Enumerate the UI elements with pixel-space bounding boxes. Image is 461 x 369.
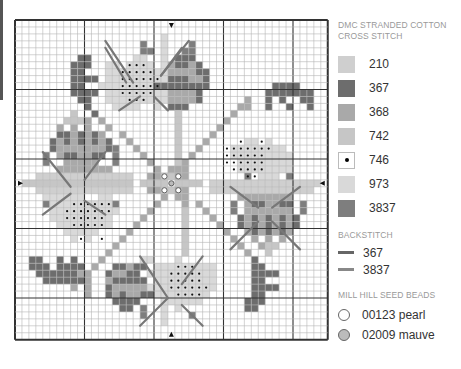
stitch-cell — [279, 222, 286, 229]
stitch-cell — [279, 208, 286, 215]
stitch-cell — [98, 138, 105, 145]
stitch-cell — [286, 229, 293, 236]
stitch-cell — [161, 270, 168, 277]
stitch-cell — [258, 208, 265, 215]
stitch-cell — [182, 298, 189, 305]
stitch-cell — [175, 69, 182, 76]
stranded-cotton-title-line2: CROSS STITCH — [338, 31, 461, 42]
stitch-cell — [147, 180, 154, 187]
stitch-cell — [57, 152, 64, 159]
stitch-cell — [272, 173, 279, 180]
stitch-cell — [36, 270, 43, 277]
stitch-cell — [272, 152, 279, 159]
stitch-cell — [126, 277, 133, 284]
stitch-cell — [147, 96, 154, 103]
stitch-cell — [251, 270, 258, 277]
color-swatch-icon — [338, 128, 355, 145]
dot-stitch-icon — [73, 203, 75, 205]
stitch-cell — [279, 96, 286, 103]
dot-stitch-icon — [129, 99, 131, 101]
stitch-cell — [175, 256, 182, 263]
stitch-cell — [161, 34, 168, 41]
stitch-cell — [293, 90, 300, 97]
dot-stitch-icon — [156, 85, 158, 87]
stitch-cell — [272, 284, 279, 291]
stitch-cell — [189, 69, 196, 76]
dot-stitch-icon — [149, 78, 151, 80]
stitch-cell — [286, 152, 293, 159]
stitch-cell — [189, 48, 196, 55]
stitch-cell — [140, 305, 147, 312]
stitch-cell — [119, 235, 126, 242]
stitch-cell — [91, 263, 98, 270]
dot-stitch-icon — [142, 99, 144, 101]
stitch-cell — [71, 235, 78, 242]
swatch-row-210: 210 — [338, 52, 461, 76]
stitch-cell — [182, 173, 189, 180]
stitch-cell — [126, 187, 133, 194]
stitch-cell — [105, 180, 112, 187]
bead-pearl-icon — [176, 174, 181, 179]
stitch-cell — [71, 69, 78, 76]
stitch-cell — [230, 201, 237, 208]
stranded-cotton-title-line1: DMC STRANDED COTTON — [338, 20, 461, 31]
swatch-code: 210 — [369, 57, 389, 71]
stitch-cell — [112, 208, 119, 215]
dot-stitch-icon — [87, 210, 89, 212]
stitch-cell — [279, 145, 286, 152]
dot-stitch-icon — [108, 210, 110, 212]
stitch-cell — [182, 62, 189, 69]
stitch-cell — [175, 305, 182, 312]
bead-code: 02009 mauve — [362, 328, 435, 342]
swatch-code: 367 — [369, 81, 389, 95]
stitch-cell — [126, 229, 133, 236]
dot-stitch-icon — [247, 154, 249, 156]
stitch-cell — [85, 55, 92, 62]
stitch-cell — [161, 41, 168, 48]
stitch-cell — [98, 166, 105, 173]
stitch-cell — [78, 173, 85, 180]
dot-stitch-icon — [136, 71, 138, 73]
stitch-cell — [279, 83, 286, 90]
stitch-cell — [29, 256, 36, 263]
dot-stitch-icon — [226, 147, 228, 149]
stitch-cell — [126, 180, 133, 187]
stitch-cell — [78, 159, 85, 166]
stitch-cell — [112, 83, 119, 90]
stitch-cell — [168, 166, 175, 173]
stitch-cell — [98, 83, 105, 90]
stitch-cell — [189, 76, 196, 83]
stitch-cell — [251, 298, 258, 305]
dot-stitch-icon — [73, 224, 75, 226]
dot-stitch-icon — [205, 286, 207, 288]
stitch-cell — [265, 138, 272, 145]
stitch-cell — [105, 187, 112, 194]
stitch-cell — [244, 208, 251, 215]
stitch-cell — [251, 187, 258, 194]
stitch-cell — [78, 229, 85, 236]
stitch-cell — [182, 180, 189, 187]
stitch-cell — [91, 180, 98, 187]
stitch-cell — [85, 229, 92, 236]
stitch-cell — [105, 83, 112, 90]
bead-code: 00123 pearl — [362, 308, 425, 322]
dot-stitch-icon — [129, 85, 131, 87]
stitch-cell — [147, 187, 154, 194]
dot-stitch-icon — [184, 293, 186, 295]
stitch-cell — [64, 145, 71, 152]
dot-stitch-icon — [149, 92, 151, 94]
stitch-cell — [230, 180, 237, 187]
stitch-cell — [175, 83, 182, 90]
stitch-cell — [71, 284, 78, 291]
stitch-cell — [133, 55, 140, 62]
dot-stitch-icon — [142, 78, 144, 80]
stitch-cell — [161, 277, 168, 284]
stitch-cell — [71, 194, 78, 201]
swatch-code: 973 — [369, 177, 389, 191]
stitch-cell — [203, 270, 210, 277]
stitch-cell — [50, 138, 57, 145]
dot-stitch-icon — [191, 293, 193, 295]
stitch-cell — [189, 180, 196, 187]
stitch-cell — [78, 145, 85, 152]
stitch-cell — [265, 235, 272, 242]
